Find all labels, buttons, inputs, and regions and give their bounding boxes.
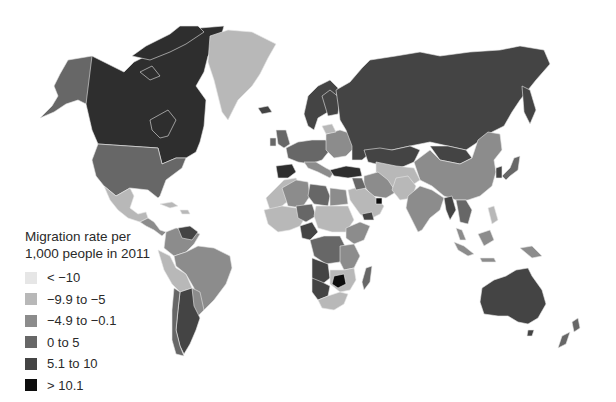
legend-item: > 10.1 — [25, 375, 195, 397]
region-india — [406, 186, 444, 232]
legend-label: −9.9 to −5 — [47, 292, 106, 307]
legend-item: −9.9 to −5 — [25, 289, 195, 311]
region-western-europe — [286, 140, 330, 164]
region-baltics — [322, 124, 336, 134]
legend-swatch — [25, 379, 37, 391]
region-korea — [496, 166, 502, 178]
region-caribbean — [160, 202, 190, 214]
region-libya — [308, 184, 330, 206]
region-new-zealand — [558, 318, 580, 348]
region-indochina — [456, 200, 472, 224]
legend-title: Migration rate per 1,000 people in 2011 — [25, 228, 195, 262]
legend-swatch — [25, 315, 37, 327]
legend: Migration rate per 1,000 people in 2011 … — [25, 228, 195, 396]
legend-item: −4.9 to −0.1 — [25, 310, 195, 332]
legend-swatch — [25, 336, 37, 348]
region-japan — [502, 156, 520, 180]
region-madagascar — [362, 266, 372, 290]
region-egypt — [330, 188, 348, 206]
region-iceland — [258, 106, 272, 114]
region-tasmania — [527, 330, 534, 336]
region-papua-new-guinea — [520, 246, 542, 258]
legend-label: 5.1 to 10 — [47, 356, 98, 371]
region-australia — [480, 268, 546, 324]
region-kamchatka — [522, 86, 536, 124]
legend-title-line1: Migration rate per — [25, 228, 195, 245]
legend-item: < −10 — [25, 267, 195, 289]
legend-label: > 10.1 — [47, 378, 84, 393]
region-iberia — [276, 164, 296, 178]
region-uk-ireland — [270, 130, 290, 148]
legend-label: −4.9 to −0.1 — [47, 313, 116, 328]
region-philippines — [488, 206, 498, 224]
region-italy-balkans — [304, 162, 334, 178]
region-malaysia — [456, 228, 466, 240]
legend-title-line2: 1,000 people in 2011 — [25, 245, 195, 262]
legend-swatch — [25, 293, 37, 305]
legend-item: 0 to 5 — [25, 332, 195, 354]
region-uae — [376, 198, 382, 204]
legend-item: 5.1 to 10 — [25, 353, 195, 375]
region-mexico — [104, 186, 148, 222]
region-nigeria — [300, 222, 318, 240]
region-russia — [336, 46, 550, 160]
legend-label: 0 to 5 — [47, 335, 80, 350]
legend-swatch — [25, 272, 37, 284]
region-east-africa — [340, 244, 360, 270]
legend-swatch — [25, 358, 37, 370]
region-turkey — [330, 166, 362, 178]
legend-label: < −10 — [47, 270, 80, 285]
